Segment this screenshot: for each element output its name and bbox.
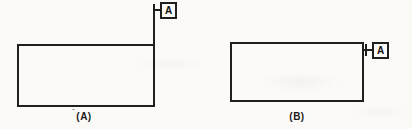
- caption-a: (A): [67, 111, 101, 122]
- datum-letter-a: A: [165, 5, 172, 16]
- datum-box-b: A: [372, 42, 389, 59]
- datum-letter-b: A: [377, 45, 384, 56]
- figure-background: A ´ (A) A (B): [0, 0, 412, 129]
- datum-box-a: A: [160, 2, 177, 19]
- datum-tick-b: [365, 44, 367, 56]
- part-outline-b: [230, 42, 364, 102]
- caption-b: (B): [280, 111, 314, 122]
- part-outline-a: [17, 44, 155, 107]
